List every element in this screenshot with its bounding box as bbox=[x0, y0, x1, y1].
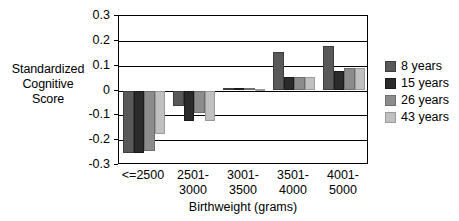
bar-group bbox=[319, 16, 369, 163]
x-tick-label: 4001-5000 bbox=[307, 168, 379, 198]
bar bbox=[344, 68, 355, 90]
y-tick-label: -0.3 bbox=[76, 158, 110, 170]
y-tick-label: -0.2 bbox=[76, 133, 110, 145]
bar bbox=[173, 91, 184, 107]
x-tick-label-line: 5000 bbox=[307, 183, 379, 198]
bar-group bbox=[119, 16, 169, 163]
legend-label: 26 years bbox=[401, 93, 449, 108]
legend-swatch-icon bbox=[385, 95, 396, 106]
legend-label: 15 years bbox=[401, 76, 449, 91]
y-tick-label: 0.1 bbox=[76, 59, 110, 71]
plot-area bbox=[118, 15, 368, 164]
bar bbox=[144, 91, 155, 152]
bar-group bbox=[269, 16, 319, 163]
x-tick-label-line: 4001- bbox=[307, 168, 379, 183]
bar bbox=[234, 88, 245, 90]
bar-group bbox=[219, 16, 269, 163]
bar bbox=[123, 91, 134, 154]
bar bbox=[305, 77, 316, 91]
bar bbox=[323, 46, 334, 91]
legend-swatch-icon bbox=[385, 112, 396, 123]
y-tick-label: 0.2 bbox=[76, 34, 110, 46]
bar bbox=[355, 68, 366, 90]
bar-chart-figure: Standardized Cognitive Score 0.30.20.10-… bbox=[0, 0, 459, 221]
bar bbox=[284, 77, 295, 91]
legend-swatch-icon bbox=[385, 78, 396, 89]
bar bbox=[184, 91, 195, 122]
bar bbox=[194, 91, 205, 113]
bar bbox=[155, 91, 166, 134]
bar bbox=[334, 71, 345, 91]
bar bbox=[205, 91, 216, 122]
bar bbox=[223, 88, 234, 90]
bar bbox=[294, 77, 305, 91]
bar bbox=[255, 89, 266, 91]
legend-label: 8 years bbox=[401, 59, 442, 74]
bar bbox=[273, 52, 284, 90]
bar-group bbox=[169, 16, 219, 163]
y-tick-label: -0.1 bbox=[76, 108, 110, 120]
x-axis-title: Birthweight (grams) bbox=[118, 200, 368, 214]
bar bbox=[134, 91, 145, 154]
bar bbox=[244, 88, 255, 90]
y-tick-label: 0 bbox=[76, 84, 110, 96]
legend-swatch-icon bbox=[385, 61, 396, 72]
y-tick-mark bbox=[114, 164, 118, 165]
y-tick-label: 0.3 bbox=[76, 9, 110, 21]
legend-label: 43 years bbox=[401, 110, 449, 125]
